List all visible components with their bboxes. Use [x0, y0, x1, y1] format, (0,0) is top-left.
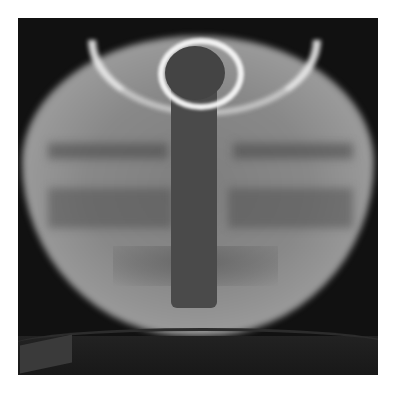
- plasma-photo: [18, 18, 378, 375]
- dark-band: [48, 188, 173, 228]
- dark-band: [48, 143, 168, 159]
- vessel-floor-edge: [18, 328, 378, 375]
- column-cap: [165, 46, 225, 100]
- center-column: [171, 78, 217, 308]
- dark-band: [228, 188, 353, 228]
- dark-band: [233, 143, 353, 159]
